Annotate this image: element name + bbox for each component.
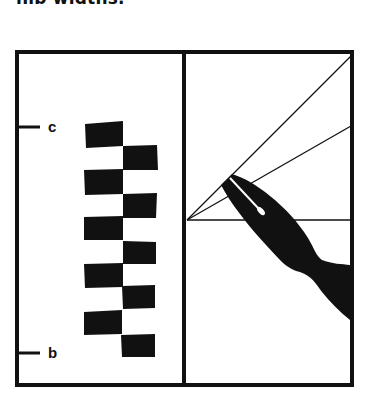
marker-c-label: c: [48, 118, 56, 135]
nib-block: [123, 193, 157, 218]
right-panel: [187, 56, 351, 320]
nib-block: [84, 263, 123, 288]
nib-block: [84, 216, 123, 240]
nib-width-blocks: [84, 121, 158, 357]
nib-block: [84, 169, 123, 195]
nib-block: [85, 121, 123, 148]
pen-nib-icon: [221, 174, 350, 320]
left-panel: c b: [19, 118, 158, 361]
nib-block: [123, 145, 158, 170]
nib-block: [84, 310, 122, 335]
nib-block: [122, 285, 155, 309]
nib-block: [121, 334, 155, 357]
nib-width-diagram: c b: [0, 0, 377, 394]
nib-block: [123, 241, 156, 264]
marker-b-label: b: [48, 344, 57, 361]
